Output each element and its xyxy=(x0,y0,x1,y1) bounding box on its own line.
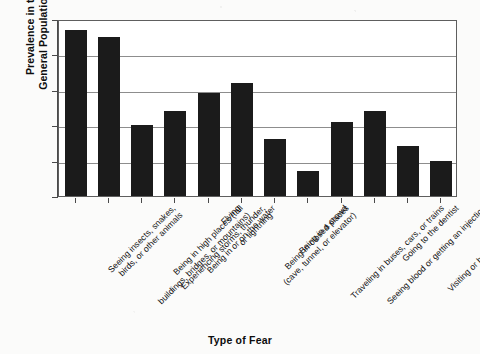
y-axis-title-line-1: Prevalence in the xyxy=(24,0,37,117)
bar xyxy=(264,139,286,196)
y-tick-mark-0 xyxy=(52,197,58,198)
x-tick-mark xyxy=(174,198,175,203)
x-axis-title: Type of Fear xyxy=(0,334,480,346)
bar xyxy=(131,125,153,196)
bar xyxy=(98,37,120,196)
bar xyxy=(65,30,87,196)
bar xyxy=(231,83,253,196)
x-tick-mark xyxy=(407,198,408,203)
x-axis-label: Being in closed places(cave, tunnel, or … xyxy=(274,203,358,287)
x-axis-label-line: Seeing insects, snakes, xyxy=(105,203,177,275)
bar xyxy=(430,161,452,196)
x-tick-mark xyxy=(141,198,142,203)
bar xyxy=(164,111,186,196)
bar xyxy=(397,146,419,196)
x-axis-label-line: (cave, tunnel, or elevator) xyxy=(281,210,358,287)
x-tick-mark xyxy=(241,198,242,203)
x-tick-mark xyxy=(75,198,76,203)
x-tick-mark xyxy=(307,198,308,203)
x-tick-mark xyxy=(374,198,375,203)
plot-area xyxy=(58,20,457,197)
y-axis-title: Prevalence in the General Population (%) xyxy=(24,0,50,117)
bar xyxy=(364,111,386,196)
chart-figure: Prevalence in the General Population (%)… xyxy=(0,0,480,354)
y-axis-title-line-2: General Population (%) xyxy=(37,0,50,117)
bar xyxy=(331,122,353,196)
x-tick-mark xyxy=(440,198,441,203)
bar xyxy=(297,171,319,196)
x-tick-mark xyxy=(274,198,275,203)
bar xyxy=(198,93,220,196)
x-tick-mark xyxy=(208,198,209,203)
x-tick-mark xyxy=(108,198,109,203)
